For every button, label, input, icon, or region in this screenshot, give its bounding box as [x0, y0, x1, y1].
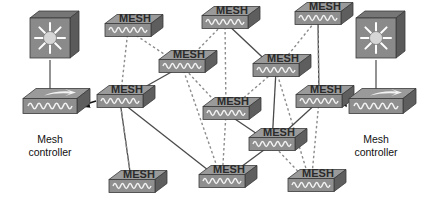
mesh-node[interactable]: MESH	[203, 95, 261, 120]
mesh-controller-switch-icon[interactable]	[23, 89, 90, 114]
mesh-node-label: MESH	[267, 52, 299, 64]
mesh-controller-switch-icon[interactable]	[349, 89, 416, 114]
mesh-node[interactable]: MESH	[109, 168, 167, 193]
mesh-node-label: MESH	[123, 168, 155, 180]
mesh-node-label: MESH	[310, 83, 342, 95]
mesh-node-label: MESH	[309, 0, 341, 12]
diagram-canvas: MESHMESHMESHMESHMESHMESHMESHMESHMESHMESH…	[0, 0, 424, 219]
mesh-node-label: MESH	[302, 167, 334, 179]
access-point-icon[interactable]	[30, 11, 79, 58]
mesh-node-label: MESH	[119, 12, 151, 24]
controller-caption-line2: controller	[28, 146, 72, 158]
mesh-node[interactable]: MESH	[296, 83, 354, 108]
mesh-node-label: MESH	[216, 4, 248, 16]
mesh-nodes-layer: MESHMESHMESHMESHMESHMESHMESHMESHMESHMESH…	[97, 0, 354, 193]
mesh-node[interactable]: MESH	[295, 0, 353, 25]
controller-caption-line1: Mesh	[363, 133, 389, 145]
mesh-node[interactable]: MESH	[202, 4, 260, 29]
mesh-node[interactable]: MESH	[105, 12, 163, 37]
mesh-node[interactable]: MESH	[159, 48, 217, 73]
mesh-node[interactable]: MESH	[97, 83, 155, 108]
controller-caption-line2: controller	[354, 146, 398, 158]
controller-caption-line1: Mesh	[37, 133, 63, 145]
mesh-node-label: MESH	[111, 83, 143, 95]
mesh-node[interactable]: MESH	[253, 52, 311, 77]
mesh-node[interactable]: MESH	[249, 126, 307, 151]
controllers-layer: MeshcontrollerMeshcontroller	[23, 11, 416, 158]
mesh-node-label: MESH	[217, 95, 249, 107]
mesh-controller-caption: Meshcontroller	[28, 133, 72, 158]
mesh-controller-caption: Meshcontroller	[354, 133, 398, 158]
access-point-icon[interactable]	[356, 11, 405, 58]
mesh-node[interactable]: MESH	[199, 163, 257, 188]
mesh-node-label: MESH	[263, 126, 295, 138]
mesh-node-label: MESH	[213, 163, 245, 175]
mesh-node-label: MESH	[173, 48, 205, 60]
mesh-network-diagram: MESHMESHMESHMESHMESHMESHMESHMESHMESHMESH…	[0, 0, 424, 219]
